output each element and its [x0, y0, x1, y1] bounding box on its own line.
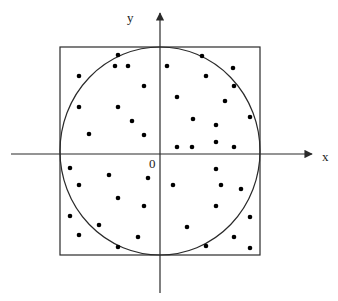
- data-point: [214, 123, 219, 128]
- data-point: [248, 246, 253, 251]
- data-point: [146, 176, 151, 181]
- data-point: [175, 95, 180, 100]
- data-point: [204, 244, 209, 249]
- data-point: [248, 115, 253, 120]
- data-point: [185, 225, 190, 230]
- data-point: [116, 245, 121, 250]
- data-point: [239, 187, 244, 192]
- data-point: [219, 183, 224, 188]
- data-point: [97, 223, 102, 228]
- data-point: [77, 183, 82, 188]
- data-point: [142, 204, 147, 209]
- data-point: [190, 145, 195, 150]
- data-point: [136, 235, 141, 240]
- data-point: [116, 53, 121, 58]
- data-point: [116, 196, 121, 201]
- data-point: [77, 233, 82, 238]
- data-point: [248, 215, 253, 220]
- data-point: [87, 132, 92, 137]
- data-point: [126, 64, 131, 69]
- data-point: [232, 235, 237, 240]
- data-point: [142, 84, 147, 89]
- data-point: [214, 140, 219, 145]
- data-point: [68, 214, 73, 219]
- data-point: [77, 74, 82, 79]
- data-point: [116, 105, 121, 110]
- data-point: [214, 167, 219, 172]
- data-point: [232, 145, 237, 150]
- data-point: [165, 64, 170, 69]
- data-point: [204, 74, 209, 79]
- y-axis-label: y: [127, 11, 134, 24]
- data-point: [232, 84, 237, 89]
- data-point: [130, 119, 135, 124]
- data-point: [77, 105, 82, 110]
- data-point: [113, 64, 118, 69]
- data-point: [231, 66, 236, 71]
- monte-carlo-diagram: [0, 0, 338, 301]
- data-point: [191, 117, 196, 122]
- data-point: [107, 173, 112, 178]
- x-axis-label: x: [322, 150, 329, 163]
- data-point: [175, 145, 180, 150]
- data-point: [214, 204, 219, 209]
- origin-label: 0: [149, 157, 156, 170]
- data-point: [68, 166, 73, 171]
- data-point: [223, 99, 228, 104]
- data-point: [171, 183, 176, 188]
- data-point: [142, 133, 147, 138]
- data-point: [200, 54, 205, 59]
